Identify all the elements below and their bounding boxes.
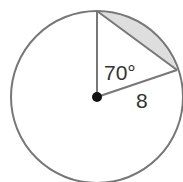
center-point: [92, 92, 102, 102]
circle-diagram: 70° 8: [0, 0, 183, 182]
angle-label: 70°: [104, 62, 136, 83]
radius-label: 8: [136, 90, 148, 111]
circle-figure: [0, 0, 183, 182]
